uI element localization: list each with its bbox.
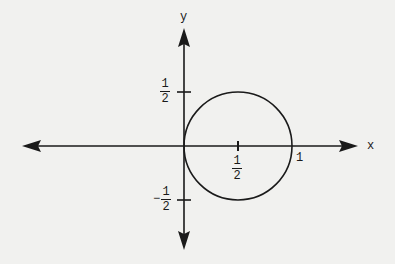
coordinate-plane [0,0,395,264]
x-axis-label: x [367,140,374,152]
y-neg-sign: − [153,193,160,205]
y-neg-half-denominator: 2 [162,200,169,213]
y-half-numerator: 1 [160,78,169,91]
y-half-denominator: 2 [161,92,168,105]
x-tick-label-half: 1 2 [232,155,242,182]
x-axis [22,140,358,152]
y-tick-label-half: 1 2 [160,78,170,105]
diagram-canvas: y x 1 2 − 1 2 1 2 1 [0,0,395,264]
y-tick-label-neg-half: 1 2 [161,186,171,213]
x-tick-label-one: 1 [296,152,303,164]
y-neg-half-numerator: 1 [161,186,170,199]
x-half-denominator: 2 [233,169,240,182]
x-half-numerator: 1 [232,155,241,168]
y-axis-label: y [180,11,187,23]
